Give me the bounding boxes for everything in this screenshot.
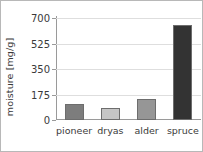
bar-spruce <box>173 25 192 120</box>
y-tick-label: 700 <box>31 13 50 24</box>
y-tick-label: 0 <box>44 115 50 126</box>
x-tick-label-alder: alder <box>135 125 159 136</box>
bar-dryas <box>101 108 120 120</box>
bar-series <box>56 18 201 120</box>
x-tick-label-pioneer: pioneer <box>56 125 92 136</box>
bar-chart-figure: moisture [mg/g] 0175350525700 pioneerdry… <box>0 0 203 152</box>
y-tick-label: 175 <box>31 89 50 100</box>
x-tick-label-dryas: dryas <box>97 125 123 136</box>
y-tick-label: 350 <box>31 64 50 75</box>
x-tick-label-spruce: spruce <box>167 125 199 136</box>
tick-mark <box>52 120 56 121</box>
y-axis-title: moisture [mg/g] <box>1 1 17 152</box>
bar-alder <box>137 99 156 120</box>
bar-pioneer <box>65 104 84 120</box>
y-tick-label: 525 <box>31 38 50 49</box>
x-axis-tick-labels: pioneerdryasalderspruce <box>56 125 201 141</box>
plot-area: 0175350525700 <box>56 18 201 120</box>
